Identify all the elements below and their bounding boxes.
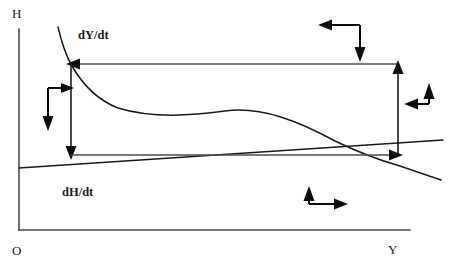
field-right-arrowhead-left [404,99,418,110]
field-left-arrowhead-right [61,83,74,93]
phase-plane-diagram: H O Y dY/dt dH/dt [0,0,451,269]
box-left-arrowhead-down [66,146,77,160]
direction-field-bottom [304,186,349,210]
box-bottom-arrowhead-right [389,150,403,161]
dy-dt-label: dY/dt [78,28,109,42]
direction-field-right [404,83,435,110]
field-bottom-arrowhead-up [304,186,315,201]
origin-label: O [12,243,21,258]
field-left-arrowhead-down [43,116,54,131]
field-top-arrowhead-left [318,20,332,31]
direction-field-left [43,83,75,131]
field-top-arrowhead-down [355,47,366,62]
y-axis-label: Y [388,242,398,257]
box-right-arrowhead-up [393,60,404,74]
direction-field-top [318,20,366,63]
dh-dt-label: dH/dt [62,185,94,199]
h-axis-label: H [12,6,21,21]
phase-plane-svg: H O Y dY/dt dH/dt [0,0,451,269]
field-right-arrowhead-up [424,83,435,99]
field-bottom-arrowhead-right [334,199,348,210]
axes-group [19,29,410,230]
dy-dt-curve [58,27,441,180]
dh-dt-line [19,140,443,168]
